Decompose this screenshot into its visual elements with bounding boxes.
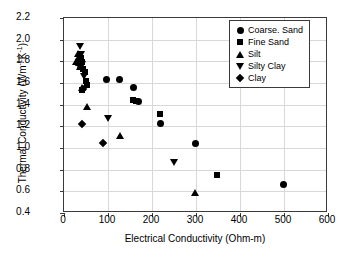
- legend-label: Coarse. Sand: [246, 24, 303, 36]
- gridline-horizontal: [64, 105, 326, 106]
- y-axis-title-prefix: Thermal Conductivity (Wm: [17, 66, 28, 184]
- data-point-silt: [83, 103, 91, 110]
- y-axis-tick: [60, 18, 64, 19]
- y-axis-title-sup1: -1: [16, 59, 23, 65]
- marker-glyph: [236, 51, 244, 58]
- y-axis-tick: [60, 40, 64, 41]
- data-point-coarse-sand: [130, 84, 137, 91]
- legend-marker-icon: [234, 24, 246, 36]
- data-point-fine-sand: [157, 111, 163, 117]
- gridline-horizontal: [64, 126, 326, 127]
- x-axis-tick-label: 600: [307, 215, 347, 225]
- y-axis-tick: [60, 105, 64, 106]
- y-axis-tick: [60, 126, 64, 127]
- x-axis-tick-label: 0: [43, 215, 83, 225]
- y-axis-title: Thermal Conductivity (Wm-1K-1): [16, 13, 28, 213]
- y-axis-tick: [60, 170, 64, 171]
- x-axis-tick-label: 400: [219, 215, 259, 225]
- legend-label: Silt: [246, 48, 261, 60]
- data-point-silty-clay: [76, 43, 84, 50]
- data-point-silty-clay: [80, 73, 88, 80]
- y-axis-tick: [60, 191, 64, 192]
- scatter-chart: 0.40.60.81.01.21.41.61.82.02.2 010020030…: [0, 0, 361, 261]
- legend-marker-icon: [234, 48, 246, 60]
- marker-glyph: [236, 63, 244, 70]
- x-axis-tick-label: 500: [263, 215, 303, 225]
- gridline-horizontal: [64, 148, 326, 149]
- gridline-horizontal: [64, 170, 326, 171]
- x-axis-tick-label: 100: [87, 215, 127, 225]
- data-point-fine-sand: [133, 98, 139, 104]
- marker-glyph: [237, 27, 244, 34]
- legend-marker-icon: [234, 36, 246, 48]
- y-axis-tick: [60, 148, 64, 149]
- y-axis-tick: [60, 83, 64, 84]
- y-axis-title-suffix: ): [17, 43, 28, 46]
- x-axis-title: Electrical Conductivity (Ohm-m): [63, 233, 327, 244]
- legend: Coarse. SandFine SandSiltSilty ClayClay: [229, 20, 310, 88]
- gridline-vertical: [196, 18, 197, 211]
- data-point-coarse-sand: [116, 76, 123, 83]
- legend-marker-icon: [234, 60, 246, 72]
- y-axis-title-sup2: -1: [16, 46, 23, 52]
- data-point-coarse-sand: [192, 140, 199, 147]
- data-point-silt: [116, 132, 124, 139]
- data-point-silt: [191, 189, 199, 196]
- data-point-coarse-sand: [157, 120, 164, 127]
- legend-item: Fine Sand: [234, 36, 303, 48]
- y-axis-tick: [60, 61, 64, 62]
- y-axis-title-mid: K: [17, 53, 28, 60]
- legend-item: Coarse. Sand: [234, 24, 303, 36]
- gridline-vertical: [152, 18, 153, 211]
- legend-item: Silt: [234, 48, 303, 60]
- marker-glyph: [236, 74, 244, 82]
- data-point-silty-clay: [170, 159, 178, 166]
- legend-marker-icon: [234, 72, 246, 84]
- legend-item: Clay: [234, 72, 303, 84]
- data-point-silty-clay: [104, 115, 112, 122]
- legend-label: Silty Clay: [246, 60, 286, 72]
- legend-label: Clay: [246, 72, 266, 84]
- legend-item: Silty Clay: [234, 60, 303, 72]
- x-axis-tick-label: 300: [175, 215, 215, 225]
- legend-label: Fine Sand: [246, 36, 289, 48]
- data-point-coarse-sand: [280, 181, 287, 188]
- marker-glyph: [237, 39, 243, 45]
- data-point-fine-sand: [214, 172, 220, 178]
- data-point-clay: [99, 139, 107, 147]
- x-axis-tick-label: 200: [131, 215, 171, 225]
